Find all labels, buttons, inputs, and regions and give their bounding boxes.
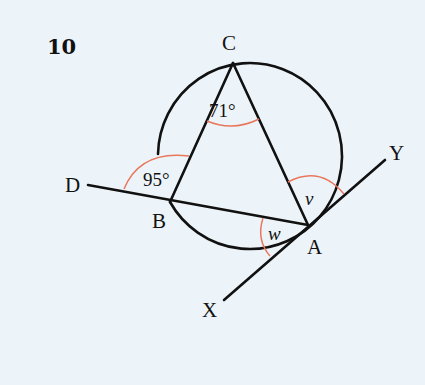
question-number: 10 [47, 34, 76, 59]
tangent-xy [224, 160, 385, 300]
side-cb [170, 63, 233, 202]
circle-theorem-diagram: 10 C B A D X Y 71° 95° v w [0, 0, 425, 385]
point-label-d: D [65, 173, 80, 197]
angle-label-v: v [305, 188, 314, 209]
line-dba [88, 185, 308, 225]
point-label-x: X [202, 298, 217, 322]
angle-label-71: 71° [209, 100, 236, 121]
angle-label-95: 95° [143, 169, 170, 190]
side-ca [233, 63, 308, 225]
angle-label-w: w [268, 223, 281, 244]
point-label-c: C [222, 31, 236, 55]
point-label-a: A [307, 235, 323, 259]
point-label-y: Y [389, 141, 404, 165]
point-label-b: B [152, 209, 166, 233]
